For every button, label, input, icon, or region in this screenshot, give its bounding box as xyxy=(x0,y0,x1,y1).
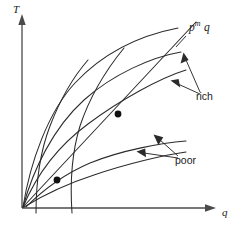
tangency-dot-lower xyxy=(54,177,61,184)
rich-arrowhead-2 xyxy=(171,79,181,88)
rich-leader-group xyxy=(171,53,201,95)
poor-annotation-label: poor xyxy=(175,155,196,166)
budget-ray-line xyxy=(23,22,196,207)
tangency-dot-upper xyxy=(115,111,122,118)
outer-envelope-curve xyxy=(23,28,178,207)
curves-group xyxy=(23,22,196,213)
poor-arrowhead-2 xyxy=(137,149,147,158)
rich-arrowhead-1 xyxy=(181,53,189,64)
steep-curve-right xyxy=(71,48,124,213)
quantity-axis-arrowhead xyxy=(205,204,216,211)
pmq-tail: q xyxy=(204,21,210,33)
poor-arrowhead-1 xyxy=(154,135,164,146)
steep-curve-left xyxy=(36,60,88,213)
rich-annotation-label: rich xyxy=(196,91,213,102)
pmq-label: pm q xyxy=(189,20,210,33)
rich-leader-line-1 xyxy=(186,60,200,92)
figure-canvas: T q pm q rich poor xyxy=(0,0,240,236)
diagram-svg xyxy=(0,0,240,236)
poor-curve-upper xyxy=(26,141,186,207)
rich-curve-upper xyxy=(23,52,181,207)
quantity-axis-label: q xyxy=(222,207,228,218)
temperature-axis-label: T xyxy=(13,4,19,15)
temperature-axis-arrowhead xyxy=(18,14,25,25)
